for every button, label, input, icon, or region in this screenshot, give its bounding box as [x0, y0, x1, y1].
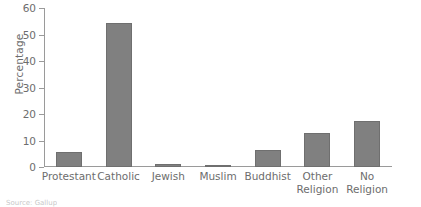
- y-tick-label: 40: [23, 56, 36, 67]
- x-axis-tick-labels: ProtestantCatholicJewishMuslimBuddhistOt…: [44, 170, 412, 204]
- bar[interactable]: [155, 164, 181, 167]
- bar-series: [44, 8, 392, 167]
- y-tick-label: 20: [23, 109, 36, 120]
- y-tick-label: 50: [23, 29, 36, 40]
- plot-area: 0102030405060: [44, 8, 412, 167]
- bar-chart: Percentage 0102030405060 ProtestantCatho…: [0, 0, 421, 207]
- bar-slot: [205, 8, 231, 167]
- y-tick-label: 10: [23, 135, 36, 146]
- bar[interactable]: [106, 23, 132, 167]
- y-tick-label: 60: [23, 3, 36, 14]
- bar[interactable]: [205, 165, 231, 167]
- bar-slot: [56, 8, 82, 167]
- y-tick-mark: [39, 167, 44, 168]
- bar-slot: [354, 8, 380, 167]
- bar-slot: [255, 8, 281, 167]
- bar[interactable]: [56, 152, 82, 167]
- bar-slot: [106, 8, 132, 167]
- bar[interactable]: [255, 150, 281, 167]
- bar[interactable]: [354, 121, 380, 167]
- y-tick-label: 30: [23, 82, 36, 93]
- bar-slot: [304, 8, 330, 167]
- bar-slot: [155, 8, 181, 167]
- x-tick-label: No Religion: [326, 170, 408, 195]
- source-caption: Source: Gallup: [6, 199, 57, 207]
- bar[interactable]: [304, 133, 330, 167]
